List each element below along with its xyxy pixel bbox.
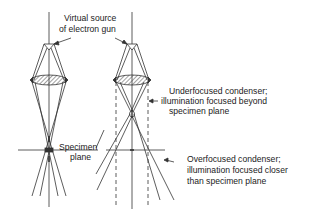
- condenser-focus-diagram: [0, 0, 326, 224]
- label-underfocused-line3: specimen plane: [169, 106, 229, 116]
- label-overfocused-line1: Overfocused condenser;: [187, 154, 281, 164]
- label-virtual-source-line1: Virtual source: [64, 13, 116, 23]
- label-underfocused-line2: illumination focused beyond: [161, 96, 267, 106]
- right-optical-column: [96, 12, 174, 209]
- label-specimen-line1: Specimen: [59, 142, 97, 152]
- label-underfocused-line1: Underfocused condenser;: [169, 86, 267, 96]
- label-overfocused-line3: than specimen plane: [187, 176, 266, 186]
- label-specimen-line2: plane: [70, 152, 91, 162]
- label-virtual-source-line2: of electron gun: [59, 24, 116, 34]
- label-overfocused-line2: illumination focused closer: [187, 165, 288, 175]
